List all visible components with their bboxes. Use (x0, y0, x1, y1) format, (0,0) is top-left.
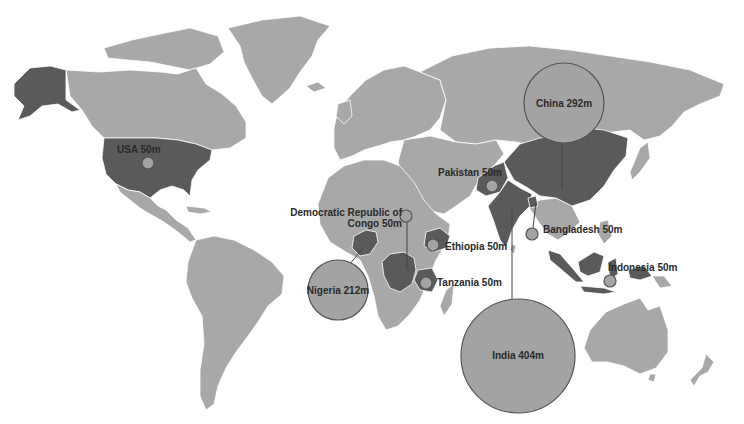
label-bangladesh: Bangladesh 50m (543, 224, 622, 235)
bubble-ethiopia[interactable] (427, 239, 439, 251)
label-china: China 292m (524, 98, 604, 109)
indonesia-borneo (578, 252, 604, 276)
japan (630, 142, 650, 180)
label-drc-line2: Congo 50m (290, 218, 402, 229)
label-usa: USA 50m (117, 144, 161, 155)
label-indonesia: Indonesia 50m (608, 262, 677, 273)
sri-lanka (510, 244, 516, 254)
south-america (186, 236, 284, 410)
tasmania (648, 374, 656, 382)
label-pakistan: Pakistan 50m (438, 167, 502, 178)
caribbean (186, 206, 212, 214)
label-ethiopia: Ethiopia 50m (445, 241, 507, 252)
bubble-pakistan[interactable] (486, 180, 498, 192)
label-india: India 404m (474, 350, 562, 361)
bubble-bangladesh[interactable] (526, 228, 538, 240)
label-nigeria: Nigeria 212m (298, 285, 378, 296)
bubble-tanzania[interactable] (420, 277, 432, 289)
papua-new-guinea (652, 276, 672, 288)
label-tanzania: Tanzania 50m (437, 277, 502, 288)
madagascar (440, 284, 454, 316)
australia (584, 298, 668, 374)
iceland (306, 82, 326, 92)
bubble-usa[interactable] (142, 157, 154, 169)
bubble-indonesia[interactable] (604, 275, 616, 287)
canada-arctic-islands (104, 28, 224, 70)
new-zealand (690, 354, 714, 386)
bangladesh (528, 196, 538, 208)
label-drc-line1: Democratic Republic of (290, 207, 402, 218)
label-drc: Democratic Republic of Congo 50m (290, 207, 402, 229)
